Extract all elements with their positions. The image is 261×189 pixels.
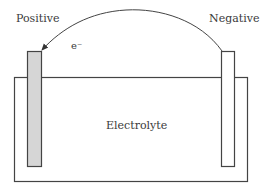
- negative-electrode: [222, 52, 235, 167]
- electron-label: e⁻: [71, 40, 82, 51]
- electrolyte-label: Electrolyte: [106, 119, 167, 132]
- electron-flow-arrow: [42, 10, 222, 51]
- battery-cell-diagram: Positive Negative e⁻ Electrolyte: [0, 0, 261, 189]
- positive-label: Positive: [16, 12, 59, 25]
- negative-label: Negative: [209, 12, 259, 25]
- diagram-canvas: [0, 0, 261, 189]
- positive-electrode: [28, 52, 42, 167]
